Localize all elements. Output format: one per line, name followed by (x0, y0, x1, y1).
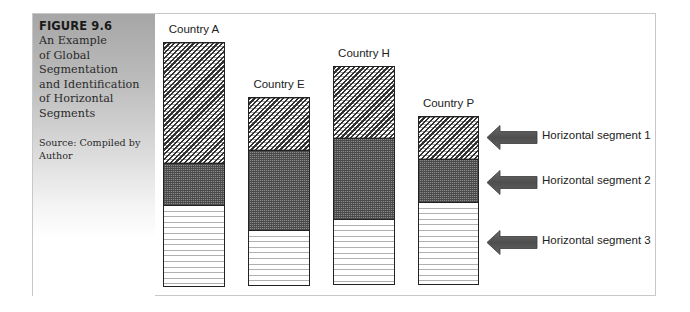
horizontal-segment-1 (334, 67, 394, 139)
figure-title-line: of Horizontal (39, 92, 155, 107)
figure-title-line: Segments (39, 107, 155, 122)
figure-title-line: of Global (39, 49, 155, 64)
legend-label: Horizontal segment 3 (542, 234, 651, 246)
left-arrow-icon (486, 229, 540, 256)
country-label: Country E (234, 78, 324, 90)
country-label: Country P (404, 97, 494, 109)
horizontal-segment-3 (419, 203, 478, 284)
legend-label: Horizontal segment 1 (542, 129, 651, 141)
country-bar (248, 97, 310, 286)
figure-source: Source: Compiled by Author (39, 136, 157, 163)
horizontal-segment-2 (164, 164, 224, 207)
figure-number: FIGURE 9.6 (39, 19, 112, 33)
country-label: Country A (149, 23, 239, 35)
country-label: Country H (319, 47, 409, 59)
horizontal-segment-3 (249, 231, 309, 284)
figure-source-line: Author (39, 149, 157, 162)
horizontal-segment-3 (164, 206, 224, 285)
legend-label: Horizontal segment 2 (542, 174, 651, 186)
horizontal-segment-2 (334, 139, 394, 220)
horizontal-segment-1 (419, 117, 478, 160)
horizontal-segment-3 (334, 220, 394, 283)
horizontal-segment-1 (249, 98, 309, 151)
figure-caption-panel: FIGURE 9.6 An Example of Global Segmenta… (33, 14, 155, 296)
country-bar (418, 116, 479, 285)
country-bar (333, 66, 395, 285)
figure-title-line: and Identification (39, 78, 155, 93)
left-arrow-icon (486, 169, 540, 196)
horizontal-segment-1 (164, 43, 224, 164)
left-arrow-icon (486, 124, 540, 151)
figure-title: An Example of Global Segmentation and Id… (39, 34, 155, 122)
country-bar (163, 42, 225, 287)
horizontal-segment-2 (249, 151, 309, 231)
figure-title-line: Segmentation (39, 63, 155, 78)
figure-source-line: Source: Compiled by (39, 136, 157, 149)
figure-title-line: An Example (39, 34, 155, 49)
horizontal-segment-2 (419, 160, 478, 202)
